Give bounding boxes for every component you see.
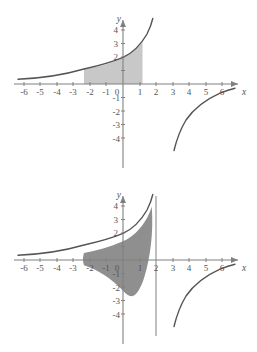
bottom-curve-right-branch [174,264,235,326]
top-chart-panel: -6 -5 -4 -3 -2 -1 1 2 3 4 5 6 0 4 3 2 -1… [0,0,257,176]
top-x-tick-label: -5 [36,87,44,97]
top-x-tick-label: -2 [86,87,94,97]
top-y-tick-label: -1 [113,93,121,103]
top-y-axis-label: y [116,14,122,24]
bottom-y-tick-label: -2 [113,283,121,293]
bottom-chart-panel: -6 -5 -4 -3 -2 -1 1 2 3 4 5 6 0 4 3 2 -1… [0,176,257,352]
top-x-axis-label: x [241,87,247,97]
top-curve-right-branch [174,88,235,150]
bottom-y-tick-label: -1 [113,269,121,279]
bottom-x-tick-label: 2 [154,263,159,273]
top-x-tick-label: 1 [138,87,143,97]
top-x-tick-label: -4 [53,87,61,97]
top-y-tick-label: -4 [113,134,121,144]
bottom-x-axis-label: x [241,263,247,273]
top-x-tick-label: -3 [69,87,77,97]
bottom-x-tick-label: 3 [171,263,176,273]
bottom-x-tick-label: 4 [187,263,192,273]
top-x-tick-label: 2 [154,87,159,97]
top-x-tick-label: 6 [220,87,225,97]
top-x-tick-label: 3 [171,87,176,97]
bottom-y-tick-label: -3 [113,296,121,306]
top-y-tick-label: 3 [114,39,119,49]
bottom-chart-svg: -6 -5 -4 -3 -2 -1 1 2 3 4 5 6 0 4 3 2 -1… [0,176,257,352]
top-x-tick-label: 5 [204,87,209,97]
bottom-y-tick-label: -4 [113,310,121,320]
bottom-x-tick-label: -4 [53,263,61,273]
top-shaded-region [84,42,143,84]
top-y-tick-label: -3 [113,120,121,130]
top-x-tick-label: 4 [187,87,192,97]
top-x-axis-arrow [231,81,238,87]
bottom-x-axis-arrow [231,257,238,263]
top-x-tick-label: -6 [20,87,28,97]
bottom-x-tick-label: 1 [138,263,143,273]
bottom-x-tick-label: -2 [86,263,94,273]
top-x-tick-label: -1 [102,87,110,97]
bottom-x-tick-label: -1 [102,263,110,273]
bottom-x-tick-label: -5 [36,263,44,273]
bottom-y-axis-label: y [116,190,122,200]
bottom-x-tick-label: -3 [69,263,77,273]
bottom-y-tick-label: 4 [114,201,119,211]
top-y-tick-label: -2 [113,107,121,117]
bottom-x-tick-label: 5 [204,263,209,273]
top-y-tick-label: 4 [114,25,119,35]
top-y-tick-label: 2 [114,52,119,62]
top-chart-svg: -6 -5 -4 -3 -2 -1 1 2 3 4 5 6 0 4 3 2 -1… [0,0,257,176]
bottom-x-tick-label: -6 [20,263,28,273]
bottom-y-tick-label: 3 [114,215,119,225]
bottom-y-tick-label: 2 [114,228,119,238]
bottom-x-tick-label: 6 [220,263,225,273]
